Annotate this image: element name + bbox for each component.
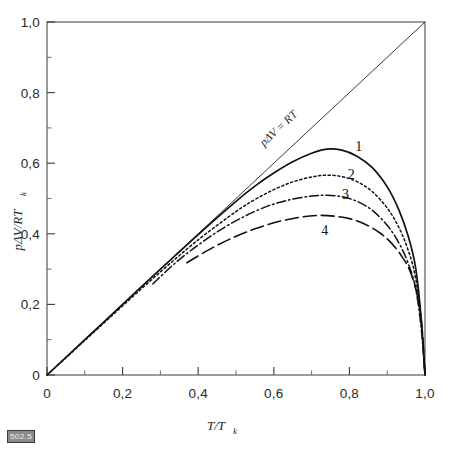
y-tick-label-4: 0,8 [21, 86, 40, 101]
diagonal-line-label-text: pΔV = RT [257, 107, 302, 150]
curve-label-2: 2 [348, 167, 355, 182]
x-tick-label-0: 0 [43, 386, 51, 401]
figure-stamp: 502.5 [7, 430, 35, 443]
x-axis-title: T/T k [207, 418, 238, 436]
curve-series-3 [153, 195, 425, 375]
y-tick-label-5: 1,0 [21, 15, 40, 30]
x-tick-label-5: 1,0 [415, 386, 434, 401]
curve-series-1 [47, 149, 425, 375]
y-tick-label-0: 0 [32, 368, 40, 383]
x-axis-title-sub: k [233, 426, 238, 436]
curve-label-3: 3 [342, 187, 349, 202]
curve-label-1: 1 [355, 139, 362, 154]
y-axis-title-main: pΔV/RT [10, 209, 25, 252]
y-tick-label-1: 0,2 [21, 297, 40, 312]
figure-root: 0 0,2 0,4 0,6 0,8 1,0 0 0,2 0,4 0,6 0,8 … [0, 0, 460, 465]
y-axis-minor-ticks [47, 57, 52, 339]
chart-figure: 0 0,2 0,4 0,6 0,8 1,0 0 0,2 0,4 0,6 0,8 … [0, 0, 460, 465]
diagonal-line-label: pΔV = RT [257, 107, 302, 150]
chart-canvas: 0 0,2 0,4 0,6 0,8 1,0 0 0,2 0,4 0,6 0,8 … [0, 0, 460, 465]
figure-caption [6, 455, 456, 465]
curve-series-2 [47, 175, 425, 375]
curve-series-4 [187, 215, 425, 375]
x-axis-minor-ticks [85, 371, 387, 376]
y-axis-title-sub: k [18, 191, 28, 196]
y-tick-label-3: 0,6 [21, 156, 40, 171]
x-tick-label-2: 0,4 [189, 386, 209, 401]
x-tick-label-4: 0,8 [340, 386, 359, 401]
x-tick-label-1: 0,2 [113, 386, 132, 401]
x-axis-title-main: T/T [207, 418, 226, 433]
y-axis-title: pΔV/RT k [10, 191, 28, 251]
curve-label-4: 4 [321, 223, 328, 238]
x-tick-label-3: 0,6 [264, 386, 283, 401]
